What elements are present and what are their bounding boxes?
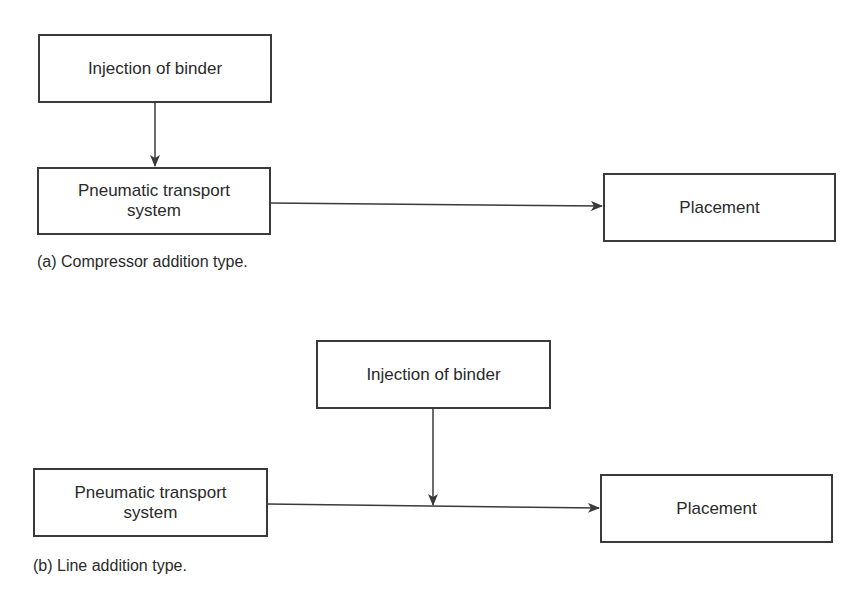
- b-pneumatic-label-line2: system: [124, 503, 178, 523]
- b-placement-label: Placement: [676, 499, 756, 519]
- b-placement-box: Placement: [600, 474, 833, 543]
- a-pneumatic-label-line1: Pneumatic transport: [78, 181, 230, 201]
- a-placement-label: Placement: [679, 198, 759, 218]
- a-pneumatic-label-line2: system: [127, 201, 181, 221]
- a-pneumatic-transport-box: Pneumatic transport system: [37, 167, 271, 235]
- arrow-a-pneumatic-to-placement: [270, 203, 602, 206]
- b-injection-of-binder-box: Injection of binder: [316, 340, 551, 409]
- b-injection-label: Injection of binder: [366, 365, 500, 385]
- b-caption: (b) Line addition type.: [33, 557, 187, 575]
- a-caption: (a) Compressor addition type.: [37, 253, 248, 271]
- a-injection-of-binder-box: Injection of binder: [38, 34, 272, 103]
- a-injection-label: Injection of binder: [88, 59, 222, 79]
- a-placement-box: Placement: [603, 173, 836, 242]
- b-pneumatic-label-line1: Pneumatic transport: [74, 483, 226, 503]
- b-pneumatic-transport-box: Pneumatic transport system: [33, 468, 268, 537]
